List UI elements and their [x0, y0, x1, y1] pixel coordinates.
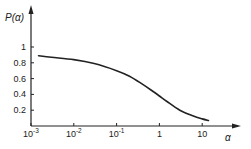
- y-tick-label: 0.4: [13, 89, 26, 99]
- series-line: [39, 56, 209, 121]
- chart: 0.20.40.60.8110-310-210-1110 P(α) α: [0, 0, 251, 149]
- series: [39, 56, 209, 121]
- y-tick-label: 0.8: [13, 58, 26, 68]
- x-tick-label: 10-3: [23, 127, 39, 139]
- y-tick-label: 0.6: [13, 74, 26, 84]
- x-tick-label: 1: [157, 129, 162, 139]
- x-tick-label: 10: [197, 129, 207, 139]
- x-axis-label: α: [225, 132, 231, 143]
- axes: [29, 5, 242, 129]
- y-tick-label: 0.2: [13, 105, 26, 115]
- x-tick-label: 10-2: [66, 127, 82, 139]
- y-axis-label: P(α): [5, 12, 24, 23]
- y-axis-arrow: [29, 5, 34, 14]
- x-tick-label: 10-1: [109, 127, 125, 139]
- x-axis-arrow: [232, 124, 241, 129]
- y-tick-label: 1: [21, 42, 26, 52]
